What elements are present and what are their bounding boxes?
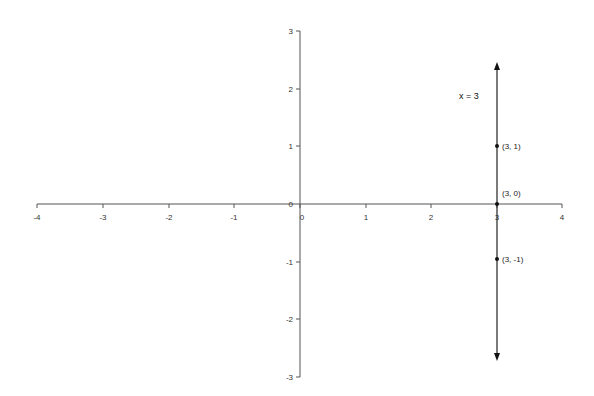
x-tick-labels: -4 -3 -2 -1 0 1 2 3 4 — [33, 213, 564, 222]
y-tick-label: -1 — [286, 258, 294, 267]
arrow-up-icon — [494, 62, 500, 70]
y-tick-label: -3 — [286, 373, 294, 382]
equation-label: x = 3 — [459, 91, 479, 101]
point-label: (3, -1) — [502, 255, 524, 264]
y-tick-label: 0 — [289, 200, 294, 209]
y-tick-label: -2 — [286, 315, 294, 324]
x-tick-label: -2 — [165, 213, 173, 222]
point-3-neg1 — [495, 257, 499, 261]
y-tick-label: 2 — [289, 85, 294, 94]
x-tick-label: 1 — [364, 213, 369, 222]
point-3-1 — [495, 144, 499, 148]
x-tick-label: 4 — [560, 213, 565, 222]
y-tick-label: 3 — [289, 27, 294, 36]
point-label: (3, 1) — [502, 142, 521, 151]
point-label: (3, 0) — [502, 189, 521, 198]
y-tick-label: 1 — [289, 142, 294, 151]
arrow-down-icon — [494, 353, 500, 361]
coordinate-plane: -4 -3 -2 -1 0 1 2 3 4 3 2 1 0 -1 -2 -3 (… — [0, 0, 594, 396]
x-tick-label: 0 — [300, 213, 305, 222]
point-3-0 — [495, 202, 499, 206]
x-tick-label: -4 — [33, 213, 41, 222]
x-tick-label: -3 — [99, 213, 107, 222]
x-tick-label: 2 — [429, 213, 434, 222]
x-tick-label: -1 — [230, 213, 238, 222]
